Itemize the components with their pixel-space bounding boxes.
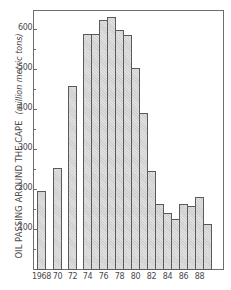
y-tick: [33, 109, 37, 110]
x-tick-label: 72: [68, 272, 77, 281]
bar-1972: [68, 86, 77, 270]
y-minor-tick: [33, 209, 36, 210]
y-minor-tick: [33, 49, 36, 50]
x-tick-label: 78: [115, 272, 124, 281]
x-tick-label: 84: [163, 272, 172, 281]
y-tick: [33, 69, 37, 70]
x-tick-label: 80: [131, 272, 140, 281]
x-tick-label: 74: [83, 272, 92, 281]
y-tick: [33, 29, 37, 30]
y-minor-tick: [33, 169, 36, 170]
bar-1970: [53, 168, 62, 270]
y-minor-tick: [33, 89, 36, 90]
bar-chart: 100200300400500600 196870727476788082848…: [0, 0, 231, 290]
y-tick: [33, 189, 37, 190]
y-axis-label: OIL PASSING AROUND THE CAPE: [14, 120, 24, 258]
y-axis-unit: (million metric tons): [15, 33, 24, 114]
y-minor-tick: [33, 249, 36, 250]
bar-1968: [37, 191, 46, 270]
x-tick-label: 82: [147, 272, 156, 281]
x-tick-label: 70: [53, 272, 62, 281]
y-axis-title: OIL PASSING AROUND THE CAPE(million metr…: [14, 33, 24, 258]
y-minor-tick: [33, 129, 36, 130]
x-tick-label: 1968: [32, 272, 51, 281]
bar-1989: [203, 224, 212, 270]
x-tick-label: 76: [99, 272, 108, 281]
x-tick-label: 88: [195, 272, 204, 281]
y-tick-label: 600: [18, 23, 32, 32]
x-tick-label: 86: [179, 272, 188, 281]
y-tick: [33, 149, 37, 150]
